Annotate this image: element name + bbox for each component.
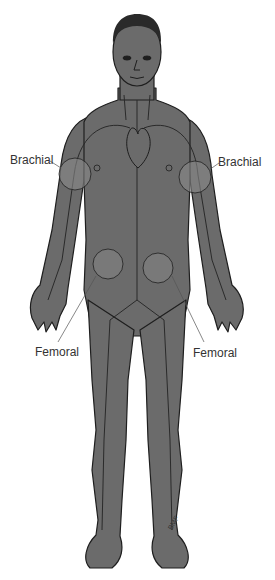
femoral-left-label: Femoral xyxy=(35,346,79,358)
right-arm xyxy=(186,118,243,332)
right-leg xyxy=(140,300,188,568)
brachial-pulse-right-circle xyxy=(179,161,211,193)
body-illustration: BMF xyxy=(0,0,275,580)
left-arm xyxy=(30,118,86,332)
brachial-pulse-left-circle xyxy=(59,158,91,190)
brachial-right-label: Brachial xyxy=(218,156,261,168)
femoral-right-label: Femoral xyxy=(193,347,237,359)
femoral-pulse-right-circle xyxy=(143,253,173,283)
brachial-left-label: Brachial xyxy=(10,154,53,166)
femoral-pulse-left-circle xyxy=(93,249,123,279)
left-leg xyxy=(86,300,134,568)
